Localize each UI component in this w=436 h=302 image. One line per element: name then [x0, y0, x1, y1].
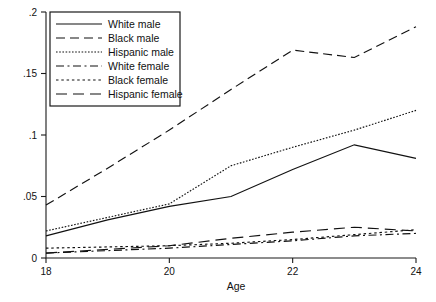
- legend-label-white-male: White male: [108, 18, 161, 30]
- chart-legend: White maleBlack maleHispanic maleWhite f…: [50, 12, 183, 106]
- chart-container: 0.05.1.15.2 18202224 White maleBlack mal…: [0, 0, 436, 302]
- line-chart: 0.05.1.15.2 18202224 White maleBlack mal…: [0, 0, 436, 302]
- series-line-black-female: [46, 230, 416, 248]
- x-tick-label: 24: [410, 266, 422, 277]
- legend-label-hispanic-male: Hispanic male: [108, 46, 174, 58]
- y-tick-label: .1: [29, 130, 38, 141]
- y-tick-label: .2: [29, 7, 38, 18]
- y-tick-label: .15: [23, 68, 37, 79]
- x-tick-label: 22: [287, 266, 299, 277]
- x-axis: 18202224: [40, 258, 422, 277]
- y-tick-label: 0: [31, 253, 37, 264]
- x-tick-label: 18: [40, 266, 52, 277]
- legend-label-black-female: Black female: [108, 74, 168, 86]
- x-axis-title: Age: [227, 280, 246, 292]
- legend-label-black-male: Black male: [108, 32, 160, 44]
- series-line-hispanic-female: [46, 227, 416, 253]
- legend-label-white-female: White female: [108, 60, 169, 72]
- legend-label-hispanic-female: Hispanic female: [108, 88, 183, 100]
- y-axis: 0.05.1.15.2: [23, 7, 46, 264]
- series-line-white-male: [46, 145, 416, 236]
- x-tick-label: 20: [164, 266, 176, 277]
- y-tick-label: .05: [23, 191, 37, 202]
- series-line-hispanic-male: [46, 110, 416, 231]
